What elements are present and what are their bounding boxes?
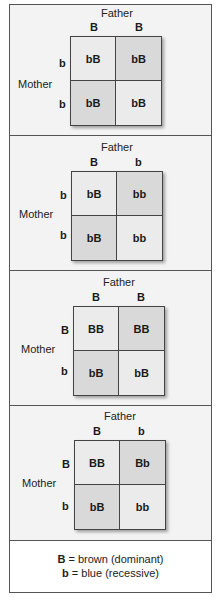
dominant-text: = brown (dominant)	[65, 553, 163, 565]
offspring-cell: bB	[72, 172, 117, 216]
punnett-panel-2: Father B b Mother b b bB bb bB bb	[10, 136, 211, 271]
offspring-cell: bB	[71, 81, 116, 125]
father-label: Father	[101, 7, 133, 19]
father-allele-2: B	[137, 291, 145, 303]
punnett-square: bB bB bB bB	[70, 36, 162, 126]
father-allele-2: B	[135, 21, 143, 33]
punnett-square: bB bb bB bb	[71, 171, 163, 261]
father-allele-1: B	[90, 21, 98, 33]
punnett-panel-1: Father B B Mother b b bB bB bB bB	[10, 5, 211, 136]
father-allele-1: B	[90, 156, 98, 168]
offspring-cell: BB	[75, 441, 120, 485]
mother-allele-2: b	[62, 500, 69, 512]
legend-dominant: B = brown (dominant)	[10, 553, 211, 565]
offspring-cell: bB	[74, 351, 119, 395]
recessive-symbol: b	[62, 567, 69, 579]
mother-label: Mother	[22, 477, 56, 489]
mother-allele-1: B	[62, 458, 70, 470]
offspring-cell: bb	[117, 216, 162, 260]
father-allele-1: B	[92, 291, 100, 303]
father-label: Father	[103, 276, 135, 288]
legend-recessive: b = blue (recessive)	[10, 567, 211, 579]
offspring-cell: bB	[72, 216, 117, 260]
mother-allele-1: b	[60, 189, 67, 201]
offspring-cell: bB	[119, 351, 164, 395]
punnett-diagram: Father B B Mother b b bB bB bB bB Father…	[9, 4, 212, 593]
father-allele-2: b	[138, 425, 145, 437]
mother-label: Mother	[18, 78, 52, 90]
punnett-panel-4: Father B b Mother B b BB Bb bB bb	[10, 406, 211, 541]
offspring-cell: bb	[117, 172, 162, 216]
punnett-square: BB BB bB bB	[73, 306, 165, 396]
legend-panel: B = brown (dominant) b = blue (recessive…	[10, 541, 211, 592]
offspring-cell: bB	[71, 37, 116, 81]
father-allele-1: B	[93, 425, 101, 437]
punnett-panel-3: Father B B Mother B b BB BB bB bB	[10, 271, 211, 406]
offspring-cell: bB	[116, 37, 161, 81]
mother-allele-2: b	[61, 365, 68, 377]
offspring-cell: bB	[75, 485, 120, 529]
offspring-cell: bB	[116, 81, 161, 125]
offspring-cell: bb	[120, 485, 165, 529]
mother-allele-1: b	[59, 57, 66, 69]
punnett-square: BB Bb bB bb	[74, 440, 166, 530]
father-allele-2: b	[135, 156, 142, 168]
offspring-cell: BB	[119, 307, 164, 351]
father-label: Father	[104, 410, 136, 422]
mother-label: Mother	[19, 208, 53, 220]
father-label: Father	[101, 141, 133, 153]
mother-allele-1: B	[61, 324, 69, 336]
mother-label: Mother	[21, 343, 55, 355]
recessive-text: = blue (recessive)	[69, 567, 159, 579]
mother-allele-2: b	[59, 98, 66, 110]
offspring-cell: BB	[74, 307, 119, 351]
offspring-cell: Bb	[120, 441, 165, 485]
mother-allele-2: b	[60, 229, 67, 241]
